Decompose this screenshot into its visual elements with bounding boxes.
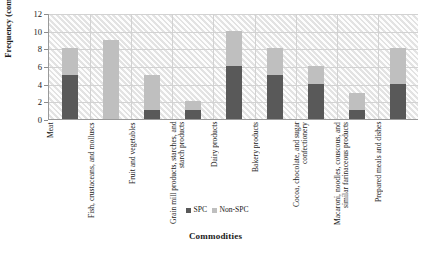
legend-item-spc: SPC: [186, 206, 207, 214]
bar-2: [103, 40, 119, 120]
vgridline-5: [255, 14, 256, 119]
chart-legend: SPC Non-SPC: [186, 206, 249, 214]
bar-segment-spc: [185, 110, 201, 119]
bar-5: [226, 31, 242, 119]
bar-segment-non-spc: [308, 66, 324, 84]
bar-segment-spc: [62, 75, 78, 119]
bar-7: [308, 66, 324, 119]
vgridline-3: [172, 14, 173, 119]
category-label-6: Bakery products: [252, 122, 296, 226]
bar-segment-non-spc: [62, 48, 78, 75]
bar-3: [144, 75, 160, 119]
bar-9: [390, 48, 406, 119]
x-axis-title: Commodities: [0, 231, 431, 241]
vgridline-1: [90, 14, 91, 119]
y-tick-8: 8: [38, 45, 42, 54]
y-tickmark-0: [44, 120, 48, 121]
legend-label-non-spc: Non-SPC: [220, 206, 249, 214]
y-tick-6: 6: [38, 63, 42, 72]
category-label-3: Fruit and vegetables: [129, 122, 173, 226]
bar-segment-spc: [267, 75, 283, 119]
y-axis-tick-labels: 12 10 8 6 4 2 0: [0, 14, 46, 120]
bar-segment-non-spc: [226, 31, 242, 66]
bar-segment-non-spc: [267, 48, 283, 75]
gridline-12: [49, 14, 418, 15]
bar-segment-non-spc: [185, 101, 201, 110]
legend-label-spc: SPC: [194, 206, 208, 214]
y-tick-2: 2: [38, 98, 42, 107]
bar-segment-non-spc: [349, 93, 365, 111]
category-label-1: Meat: [47, 122, 91, 226]
category-label-9: Prepared meals and dishes: [375, 122, 419, 226]
bar-4: [185, 101, 201, 119]
bar-segment-non-spc: [390, 48, 406, 83]
bar-8: [349, 93, 365, 119]
legend-swatch-non-spc: [212, 208, 217, 213]
vgridline-4: [213, 14, 214, 119]
bar-segment-spc: [390, 84, 406, 119]
bar-segment-non-spc: [144, 75, 160, 110]
bar-segment-spc: [349, 110, 365, 119]
bar-segment-spc: [144, 110, 160, 119]
plot-area: [48, 14, 418, 120]
bar-segment-spc: [308, 84, 324, 119]
vgridline-7: [337, 14, 338, 119]
legend-swatch-spc: [186, 208, 191, 213]
vgridline-2: [131, 14, 132, 119]
y-tick-12: 12: [33, 10, 42, 19]
bar-segment-non-spc: [103, 40, 119, 120]
legend-item-non-spc: Non-SPC: [212, 206, 249, 214]
y-tick-4: 4: [38, 81, 42, 90]
y-tick-10: 10: [33, 28, 42, 37]
bar-6: [267, 48, 283, 119]
bar-segment-spc: [226, 66, 242, 119]
category-label-2: Fish, crustaceans, and molluscs: [88, 122, 132, 226]
category-label-8: Macaroni, noodles, couscous, and similar…: [334, 122, 378, 226]
y-tick-0: 0: [38, 116, 42, 125]
category-label-7: Cocoa, chocolate, and sugar confectioner…: [293, 122, 337, 226]
bar-chart: Frequency (companies) 12 10 8 6 4 2 0 Me…: [0, 0, 431, 254]
vgridline-8: [378, 14, 379, 119]
bar-1: [62, 48, 78, 119]
vgridline-6: [296, 14, 297, 119]
